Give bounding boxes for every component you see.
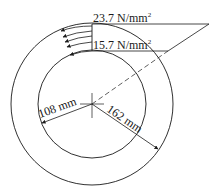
center-cross bbox=[80, 93, 104, 118]
dashed-radial-line bbox=[92, 51, 168, 104]
max-stress-label: 23.7 N/mm2 bbox=[93, 11, 152, 25]
min-stress-label: 15.7 N/mm2 bbox=[93, 38, 152, 52]
shaft-stress-diagram: 23.7 N/mm2 15.7 N/mm2 108 mm 162 mm bbox=[0, 0, 223, 190]
outer-dimension-label: 162 mm bbox=[104, 102, 145, 136]
